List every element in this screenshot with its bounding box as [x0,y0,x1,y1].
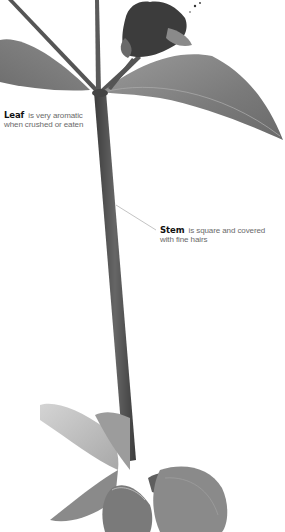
stem-leader-line [116,205,156,230]
stem-annotation: Stem is square and covered with fine hai… [160,226,280,244]
leaf-annotation: Leaf is very aromatic when crushed or ea… [4,111,104,129]
stem-description-line2: with fine hairs [160,235,207,244]
lower-leaves [40,404,227,532]
stem-term: Stem [160,225,184,235]
botanical-illustration: Leaf is very aromatic when crushed or ea… [0,0,285,532]
upper-left-leaf [0,39,90,90]
leaf-description-line1: is very aromatic [28,111,82,120]
plant-image [0,0,285,532]
leaf-term: Leaf [4,110,24,120]
leaf-description-line2: when crushed or eaten [4,120,83,129]
stem-description-line1: is square and covered [189,226,266,235]
main-stem [94,92,136,462]
